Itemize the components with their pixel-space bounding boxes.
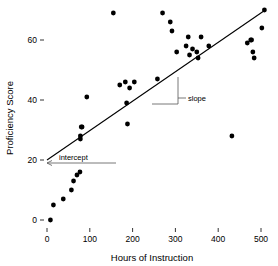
- data-point: [125, 122, 130, 127]
- y-tick-label: 40: [28, 95, 38, 105]
- data-points-group: [48, 8, 267, 223]
- data-point: [111, 11, 116, 16]
- data-point: [80, 125, 85, 130]
- data-point: [155, 77, 160, 82]
- slope-label: slope: [188, 94, 206, 103]
- data-point: [262, 8, 267, 13]
- data-point: [78, 134, 83, 139]
- data-point: [249, 38, 254, 43]
- data-point: [186, 35, 191, 40]
- scatter-plot-figure: 0204060 0100200300400500 Proficiency Sco…: [0, 0, 278, 266]
- data-point: [174, 50, 179, 55]
- data-point: [199, 35, 204, 40]
- data-point: [123, 80, 128, 85]
- y-axis-title: Proficiency Score: [4, 81, 15, 155]
- x-tick-label: 0: [45, 234, 50, 244]
- data-point: [124, 101, 129, 106]
- data-point: [48, 218, 53, 223]
- data-point: [160, 11, 165, 16]
- x-axis-title: Hours of Instruction: [111, 252, 193, 263]
- data-point: [84, 95, 89, 100]
- data-point: [252, 56, 257, 61]
- data-point: [187, 53, 192, 58]
- y-axis-tick-marks: [40, 40, 44, 220]
- intercept-label: intercept: [59, 153, 89, 162]
- data-point: [71, 179, 76, 184]
- data-point: [78, 170, 83, 175]
- data-point: [190, 47, 195, 52]
- x-tick-label: 400: [211, 234, 225, 244]
- data-point: [206, 44, 211, 49]
- data-point: [168, 20, 173, 25]
- data-point: [127, 86, 132, 91]
- plot-canvas: 0204060 0100200300400500 Proficiency Sco…: [0, 0, 278, 266]
- data-point: [194, 50, 199, 55]
- data-point: [51, 203, 56, 208]
- data-point: [229, 134, 234, 139]
- x-tick-label: 200: [126, 234, 140, 244]
- y-axis-tick-labels: 0204060: [28, 35, 38, 225]
- x-tick-label: 100: [83, 234, 97, 244]
- y-tick-label: 60: [28, 35, 38, 45]
- data-point: [132, 80, 137, 85]
- x-tick-label: 500: [254, 234, 268, 244]
- data-point: [196, 56, 201, 61]
- data-point: [117, 83, 122, 88]
- data-point: [170, 29, 175, 34]
- slope-annotation: slope: [152, 77, 206, 104]
- data-point: [69, 188, 74, 193]
- y-tick-label: 20: [28, 155, 38, 165]
- x-axis-tick-labels: 0100200300400500: [45, 234, 269, 244]
- data-point: [250, 50, 255, 55]
- data-point: [259, 26, 264, 31]
- x-tick-label: 300: [168, 234, 182, 244]
- y-tick-label: 0: [32, 215, 37, 225]
- data-point: [61, 197, 66, 202]
- intercept-annotation: intercept: [47, 153, 116, 166]
- data-point: [184, 44, 189, 49]
- x-axis-tick-marks: [47, 228, 261, 232]
